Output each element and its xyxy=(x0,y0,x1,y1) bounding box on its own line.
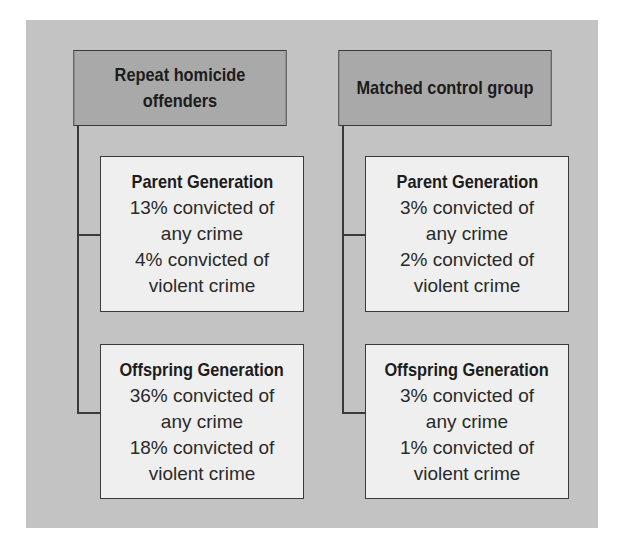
group-header-line: Repeat homicide xyxy=(115,62,246,88)
node-stat-any-crime-label: any crime xyxy=(161,221,243,247)
connector-vertical-left xyxy=(77,126,79,413)
node-stat-any-crime: 3% convicted of xyxy=(400,383,534,409)
node-stat-violent-crime-label: violent crime xyxy=(414,461,521,487)
node-offspring-generation-offenders: Offspring Generation 36% convicted of an… xyxy=(100,344,304,499)
node-stat-violent-crime: 2% convicted of xyxy=(400,247,534,273)
connector-to-offspring-left xyxy=(77,412,100,414)
node-stat-violent-crime-label: violent crime xyxy=(149,461,256,487)
node-stat-violent-crime: 4% convicted of xyxy=(135,247,269,273)
connector-to-parent-left xyxy=(77,234,100,236)
node-parent-generation-offenders: Parent Generation 13% convicted of any c… xyxy=(100,156,304,312)
node-title: Offspring Generation xyxy=(120,357,284,383)
node-stat-violent-crime: 18% convicted of xyxy=(130,435,275,461)
node-stat-violent-crime: 1% convicted of xyxy=(400,435,534,461)
node-stat-any-crime-label: any crime xyxy=(426,221,508,247)
node-offspring-generation-control: Offspring Generation 3% convicted of any… xyxy=(365,344,569,499)
node-title: Parent Generation xyxy=(131,169,273,195)
node-title: Offspring Generation xyxy=(385,357,549,383)
node-title: Parent Generation xyxy=(396,169,538,195)
connector-to-parent-right xyxy=(342,234,365,236)
node-stat-any-crime-label: any crime xyxy=(426,409,508,435)
node-stat-any-crime: 36% convicted of xyxy=(130,383,275,409)
node-stat-violent-crime-label: violent crime xyxy=(414,273,521,299)
group-header-matched-control-group: Matched control group xyxy=(338,50,551,126)
node-parent-generation-control: Parent Generation 3% convicted of any cr… xyxy=(365,156,569,312)
group-header-repeat-homicide-offenders: Repeat homicide offenders xyxy=(73,50,286,126)
connector-vertical-right xyxy=(342,126,344,413)
node-stat-violent-crime-label: violent crime xyxy=(149,273,256,299)
group-header-line: Matched control group xyxy=(356,75,533,101)
group-header-line: offenders xyxy=(143,88,217,114)
connector-to-offspring-right xyxy=(342,412,365,414)
node-stat-any-crime: 13% convicted of xyxy=(130,195,275,221)
node-stat-any-crime: 3% convicted of xyxy=(400,195,534,221)
node-stat-any-crime-label: any crime xyxy=(161,409,243,435)
